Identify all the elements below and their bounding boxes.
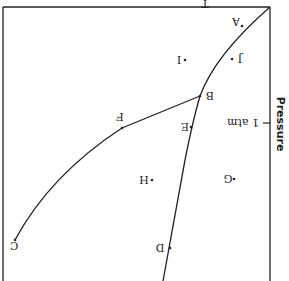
point-label-a: A [231, 15, 241, 28]
point-markers [14, 25, 244, 250]
point-label-h: H [139, 173, 149, 186]
liquid-gas-boundary [15, 96, 200, 240]
point-label-c: C [10, 239, 18, 252]
phase-diagram: T A B C D E F G H I J 1 atm Pressure [0, 0, 289, 281]
point-label-e: E [181, 120, 189, 133]
point-label-f: F [116, 110, 124, 123]
point-label-j: J [238, 52, 243, 65]
point-label-d: D [155, 241, 164, 254]
solid-liquid-boundary [163, 7, 270, 281]
point-label-b: B [206, 89, 214, 102]
phase-boundaries [15, 7, 270, 281]
one-atm-label: 1 atm [226, 116, 258, 129]
point-label-i: I [177, 53, 181, 66]
y-axis-label: Pressure [274, 97, 287, 152]
point-label-g: G [224, 172, 233, 185]
x-axis-label: T [201, 0, 209, 10]
